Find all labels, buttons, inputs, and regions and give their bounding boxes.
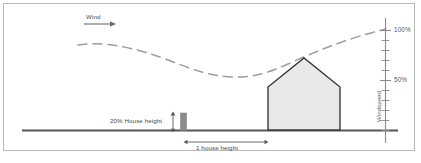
windspeed-curve <box>78 29 386 77</box>
spacing-label: 1 house height <box>196 145 238 151</box>
house-shape <box>268 58 340 130</box>
wind-arrow-icon <box>84 21 116 26</box>
axis-tick-50-label: 50% <box>394 77 407 83</box>
diagram-graphics <box>0 0 421 163</box>
obstacle-bar <box>181 113 187 131</box>
bar-height-label: 20% House height <box>110 118 162 124</box>
axis-title-windspeed: Windspeed <box>375 91 382 122</box>
bar-height-arrow-icon <box>171 112 176 133</box>
diagram-canvas: Wind 20% House height 1 house height 100… <box>0 0 421 163</box>
wind-label: Wind <box>86 14 101 20</box>
axis-tick-100-label: 100% <box>394 27 411 33</box>
windspeed-axis <box>380 18 391 143</box>
